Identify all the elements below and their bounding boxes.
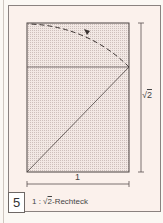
figure-caption: 1 : √2-Rechteck [32,197,88,206]
figure-number: 5 [8,192,25,213]
height-label: √2 [142,90,152,100]
rectangle [27,23,129,172]
width-label: 1 [75,172,80,182]
root2-rectangle-diagram [0,0,163,223]
